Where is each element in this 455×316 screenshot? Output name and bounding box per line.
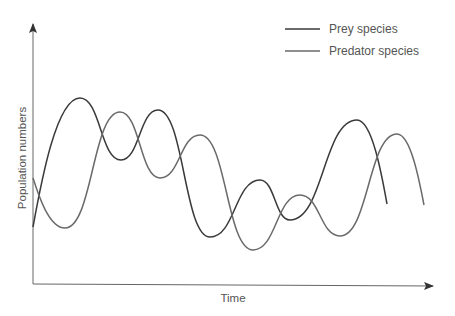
prey-species-curve xyxy=(33,98,387,237)
legend-label-prey: Prey species xyxy=(329,22,398,36)
predator-species-curve xyxy=(33,112,424,250)
x-axis-label: Time xyxy=(220,292,245,304)
legend-label-predator: Predator species xyxy=(329,44,419,58)
series-group xyxy=(33,98,424,250)
legend: Prey species Predator species xyxy=(285,22,419,58)
x-axis xyxy=(33,284,433,286)
axes xyxy=(33,24,433,286)
y-axis-label: Population numbers xyxy=(16,107,28,210)
predator-prey-chart: Prey species Predator species Time Popul… xyxy=(0,0,455,316)
